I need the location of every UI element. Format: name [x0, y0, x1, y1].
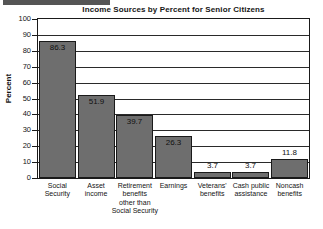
y-axis-tick-label: 50 [5, 95, 31, 103]
y-axis-tick-label: 0 [5, 174, 31, 182]
bar [232, 172, 269, 178]
y-axis-tick-label: 90 [5, 31, 31, 39]
x-axis-category-line: Noncash [264, 182, 315, 190]
y-axis-tick-label: 60 [5, 79, 31, 87]
gridline [38, 67, 309, 68]
bar-value-label: 3.7 [194, 162, 231, 170]
gridline [38, 51, 309, 52]
y-axis-tick-label: 80 [5, 47, 31, 55]
x-axis-category-line: Social Security [109, 207, 160, 215]
plot-area: 86.351.939.726.33.73.711.8 [37, 18, 310, 179]
bar-chart: Income Sources by Percent for Senior Cit… [0, 0, 323, 229]
bar-value-label: 3.7 [232, 162, 269, 170]
bar [78, 95, 115, 178]
bar-value-label: 86.3 [39, 44, 76, 52]
bar-value-label: 51.9 [78, 98, 115, 106]
y-axis-tick-label: 20 [5, 142, 31, 150]
bar-value-label: 26.3 [155, 139, 192, 147]
x-axis-category-label: Noncashbenefits [264, 182, 315, 199]
bar-value-label: 11.8 [271, 149, 308, 157]
bar [39, 41, 76, 178]
x-axis-category-line: benefits [264, 190, 315, 198]
x-axis-category-line: benefits [109, 190, 160, 198]
gridline [38, 83, 309, 84]
x-axis-category-line: other than [109, 199, 160, 207]
y-axis-tick-label: 100 [5, 15, 31, 23]
chart-title: Income Sources by Percent for Senior Cit… [37, 5, 310, 15]
y-axis-tick-label: 70 [5, 63, 31, 71]
bar [194, 172, 231, 178]
bar [271, 159, 308, 178]
y-axis-tick-label: 10 [5, 158, 31, 166]
y-axis-tick-label: 30 [5, 126, 31, 134]
bar-value-label: 39.7 [116, 118, 153, 126]
gridline [38, 35, 309, 36]
y-axis-tick-label: 40 [5, 110, 31, 118]
